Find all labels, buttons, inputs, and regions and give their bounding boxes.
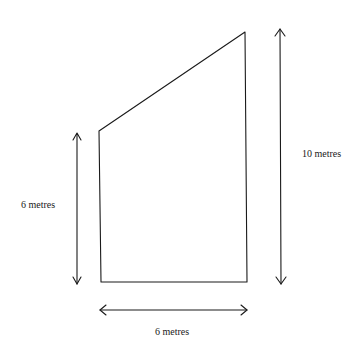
left-height-label: 6 metres (21, 199, 55, 210)
base-width-label: 6 metres (155, 326, 189, 337)
base-width-arrow (100, 305, 247, 315)
trapezium-figure (0, 0, 360, 349)
right-height-label: 10 metres (302, 148, 341, 159)
left-height-arrow (73, 133, 81, 284)
trapezium-outline (99, 32, 247, 282)
right-height-arrow (275, 29, 286, 284)
diagram-canvas: 6 metres 10 metres 6 metres (0, 0, 360, 349)
